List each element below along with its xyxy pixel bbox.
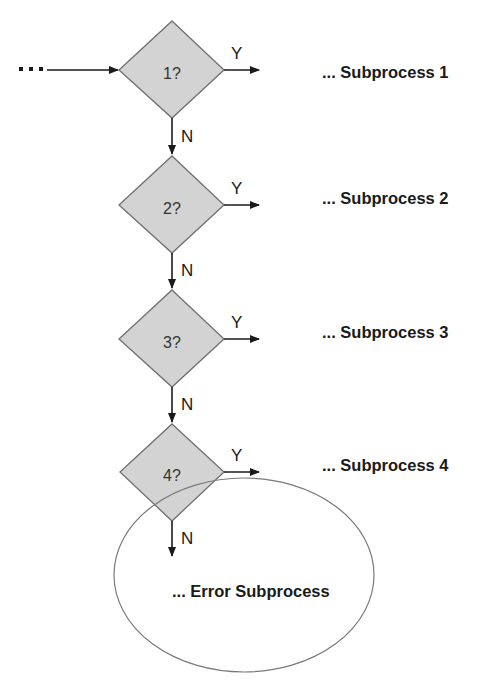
yes-label-4: Y: [231, 446, 242, 465]
yes-label-3: Y: [231, 313, 242, 332]
decision-4: 4?: [120, 424, 224, 521]
decision-3-label: 3?: [163, 334, 181, 351]
no-label-1: N: [181, 127, 193, 146]
error-subprocess-label: ... Error Subprocess: [172, 582, 330, 600]
decision-2-label: 2?: [163, 200, 181, 217]
yes-label-1: Y: [231, 44, 242, 63]
entry-ellipsis: [19, 67, 43, 71]
decision-1: 1?: [119, 21, 224, 118]
decision-3: 3?: [119, 290, 224, 387]
flowchart-canvas: 1? Y ... Subprocess 1 N 2? Y ... Subproc…: [0, 0, 498, 689]
no-label-2: N: [181, 261, 193, 280]
subprocess-1-label: ... Subprocess 1: [322, 63, 449, 81]
decision-4-label: 4?: [163, 467, 181, 484]
decision-1-label: 1?: [163, 65, 181, 82]
error-subprocess-ellipse: [114, 478, 374, 672]
subprocess-4-label: ... Subprocess 4: [322, 456, 449, 474]
yes-label-2: Y: [231, 179, 242, 198]
subprocess-3-label: ... Subprocess 3: [322, 323, 449, 341]
no-label-3: N: [181, 395, 193, 414]
subprocess-2-label: ... Subprocess 2: [322, 189, 449, 207]
decision-2: 2?: [119, 156, 224, 253]
no-label-4: N: [181, 529, 193, 548]
